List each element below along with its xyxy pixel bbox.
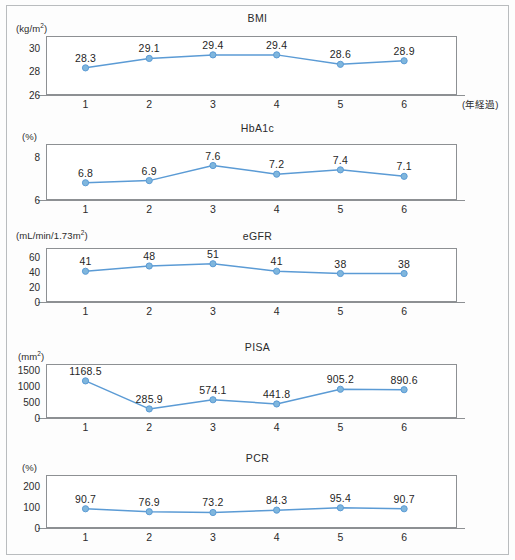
x-tick-label: 4 — [274, 531, 280, 543]
x-tick-label: 4 — [274, 203, 280, 215]
x-tick-label: 1 — [83, 421, 89, 433]
data-point-label: 890.6 — [390, 374, 417, 386]
data-point-label: 7.6 — [205, 150, 220, 162]
data-point-label: 1168.5 — [69, 365, 102, 377]
x-tick-label: 3 — [210, 305, 216, 317]
data-point-label: 574.1 — [199, 384, 226, 396]
chart-title-bmi: BMI — [0, 12, 515, 24]
clinical-trend-figure: BMI(kg/m2)30282612345628.329.129.429.428… — [0, 0, 515, 560]
y-tick-label: 20 — [0, 282, 40, 293]
y-tick-label: 200 — [0, 480, 40, 491]
chart-title-pisa: PISA — [0, 341, 515, 353]
data-point-label: 51 — [207, 248, 219, 260]
y-tick-label: 1500 — [0, 365, 40, 376]
chart-title-hba1c: HbA1c — [0, 122, 515, 134]
y-tick-label: 0 — [0, 297, 40, 308]
data-point-label: 95.4 — [330, 492, 351, 504]
x-tick-label: 2 — [146, 98, 152, 110]
x-tick-label: 5 — [337, 305, 343, 317]
x-tick-label: 5 — [337, 98, 343, 110]
y-axis-unit-hba1c: (%) — [22, 131, 37, 142]
data-point-label: 28.6 — [330, 48, 351, 60]
data-point-label: 6.9 — [142, 165, 157, 177]
plot-area-pisa — [46, 364, 457, 418]
x-axis-line-pisa — [38, 418, 465, 419]
y-tick-label: 0 — [0, 413, 40, 424]
data-point-label: 29.1 — [139, 42, 160, 54]
x-tick-label: 2 — [146, 203, 152, 215]
data-point-label: 905.2 — [327, 373, 354, 385]
y-tick-label: 30 — [0, 42, 40, 53]
x-tick-label: 5 — [337, 421, 343, 433]
data-point-label: 7.2 — [269, 158, 284, 170]
data-point-label: 41 — [271, 255, 283, 267]
data-point-label: 76.9 — [139, 496, 160, 508]
x-tick-label: 2 — [146, 531, 152, 543]
y-tick-label: 40 — [0, 267, 40, 278]
y-tick-label: 8 — [0, 151, 40, 162]
data-point-label: 28.3 — [75, 52, 96, 64]
x-tick-label: 3 — [210, 531, 216, 543]
x-axis-caption: (年経過) — [462, 97, 498, 111]
x-tick-label: 4 — [274, 421, 280, 433]
x-axis-line-bmi — [38, 95, 465, 96]
x-tick-label: 6 — [401, 421, 407, 433]
data-point-label: 38 — [334, 258, 346, 270]
x-tick-label: 2 — [146, 305, 152, 317]
data-point-label: 38 — [398, 258, 410, 270]
data-point-label: 7.1 — [397, 160, 412, 172]
x-tick-label: 5 — [337, 203, 343, 215]
x-tick-label: 1 — [83, 305, 89, 317]
data-point-label: 7.4 — [333, 154, 348, 166]
x-tick-label: 1 — [83, 531, 89, 543]
data-point-label: 6.8 — [78, 167, 93, 179]
x-tick-label: 6 — [401, 305, 407, 317]
x-axis-line-pcr — [38, 528, 465, 529]
y-axis-unit-pcr: (%) — [22, 462, 37, 473]
data-point-label: 29.4 — [202, 39, 223, 51]
x-tick-label: 4 — [274, 305, 280, 317]
x-tick-label: 3 — [210, 203, 216, 215]
x-axis-line-egfr — [38, 302, 465, 303]
x-tick-label: 1 — [83, 203, 89, 215]
x-tick-label: 3 — [210, 421, 216, 433]
y-tick-label: 60 — [0, 252, 40, 263]
y-axis-unit-egfr: (mL/min/1.73m2) — [16, 230, 88, 241]
data-point-label: 48 — [143, 250, 155, 262]
y-axis-unit-bmi: (kg/m2) — [16, 23, 47, 34]
y-tick-label: 1000 — [0, 381, 40, 392]
y-axis-unit-pisa: (mm2) — [18, 351, 44, 362]
data-point-label: 73.2 — [202, 496, 223, 508]
chart-title-pcr: PCR — [0, 452, 515, 464]
data-point-label: 90.7 — [75, 493, 96, 505]
x-tick-label: 1 — [83, 98, 89, 110]
data-point-label: 441.8 — [263, 388, 290, 400]
plot-area-egfr — [46, 248, 457, 302]
y-tick-label: 28 — [0, 66, 40, 77]
data-point-label: 28.9 — [393, 45, 414, 57]
data-point-label: 84.3 — [266, 494, 287, 506]
x-tick-label: 2 — [146, 421, 152, 433]
y-tick-label: 500 — [0, 397, 40, 408]
x-tick-label: 6 — [401, 531, 407, 543]
data-point-label: 29.4 — [266, 39, 287, 51]
x-axis-line-hba1c — [38, 200, 465, 201]
x-tick-label: 5 — [337, 531, 343, 543]
y-tick-label: 26 — [0, 90, 40, 101]
data-point-label: 285.9 — [136, 393, 163, 405]
plot-area-hba1c — [46, 144, 457, 200]
y-tick-label: 0 — [0, 523, 40, 534]
x-tick-label: 4 — [274, 98, 280, 110]
x-tick-label: 3 — [210, 98, 216, 110]
data-point-label: 41 — [79, 255, 91, 267]
x-tick-label: 6 — [401, 203, 407, 215]
y-tick-label: 100 — [0, 501, 40, 512]
y-tick-label: 6 — [0, 195, 40, 206]
x-tick-label: 6 — [401, 98, 407, 110]
data-point-label: 90.7 — [393, 493, 414, 505]
